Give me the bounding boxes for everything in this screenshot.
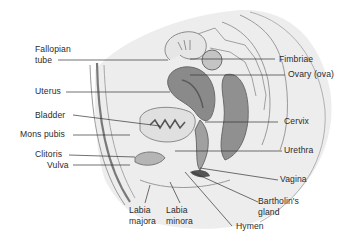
label-mons-pubis: Mons pubis — [20, 129, 65, 140]
label-clitoris: Clitoris — [35, 149, 62, 160]
label-urethra: Urethra — [284, 145, 313, 156]
label-fimbriae: Fimbriae — [279, 54, 313, 65]
label-labia-majora: Labia majora — [129, 205, 156, 227]
label-cervix: Cervix — [284, 116, 309, 127]
label-vagina: Vagina — [280, 174, 307, 185]
ovary-shape — [202, 50, 222, 70]
label-ovary: Ovary (ova) — [288, 69, 334, 80]
label-hymen: Hymen — [236, 221, 264, 232]
label-bartholins-gland: Bartholin's gland — [258, 196, 299, 218]
label-vulva: Vulva — [47, 160, 69, 171]
label-bladder: Bladder — [35, 110, 65, 121]
label-fallopian-tube: Fallopian tube — [35, 44, 71, 66]
label-uterus: Uterus — [35, 86, 61, 97]
label-labia-minora: Labia minora — [166, 205, 193, 227]
